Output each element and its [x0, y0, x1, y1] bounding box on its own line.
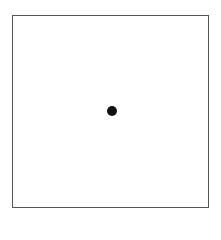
- center-dot: [107, 106, 117, 116]
